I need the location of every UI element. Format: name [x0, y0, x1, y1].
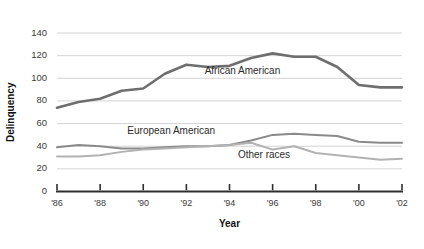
x-tick-label-2002: '02 [396, 198, 408, 208]
x-tick-label-1996: '96 [267, 198, 279, 208]
y-tick-label-80: 80 [36, 94, 47, 105]
series-label-other-races: Other races [238, 149, 290, 160]
y-axis-title: Delinquency [5, 82, 16, 142]
y-tick-label-140: 140 [31, 27, 47, 38]
y-tick-label-20: 20 [36, 162, 47, 173]
chart-figure: 020406080100120140 '86'88'90'92'94'96'98… [0, 0, 424, 249]
y-tick-label-60: 60 [36, 117, 47, 128]
series-label-european-american: European American [127, 125, 215, 136]
y-tick-label-0: 0 [42, 185, 47, 196]
x-tick-label-1988: '88 [94, 198, 106, 208]
series-label-african-american: African American [205, 65, 281, 76]
x-tick-label-1986: '86 [51, 198, 63, 208]
x-tick-label-1990: '90 [137, 198, 149, 208]
x-tick-label-1994: '94 [224, 198, 236, 208]
x-tick-label-2000: '00 [353, 198, 365, 208]
x-tick-label-1992: '92 [181, 198, 193, 208]
y-tick-label-100: 100 [31, 72, 47, 83]
y-tick-label-120: 120 [31, 49, 47, 60]
x-axis-title: Year [219, 218, 240, 229]
x-tick-label-1998: '98 [310, 198, 322, 208]
x-tick-labels-group: '86'88'90'92'94'96'98'00'02 [51, 198, 408, 208]
delinquency-line-chart: 020406080100120140 '86'88'90'92'94'96'98… [0, 0, 424, 249]
y-tick-label-40: 40 [36, 140, 47, 151]
